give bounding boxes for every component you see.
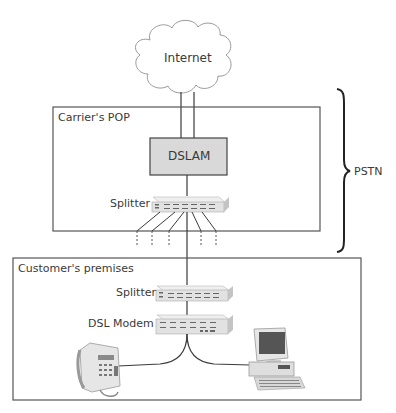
subscriber-lines (137, 212, 216, 231)
phone-cable (118, 334, 187, 366)
computer-cable (187, 334, 250, 365)
dslam-label: DSLAM (168, 150, 210, 162)
telephone-icon (78, 343, 120, 396)
computer-icon (249, 328, 305, 390)
carrier-pop-label: Carrier's POP (58, 112, 130, 123)
customer-splitter-label: Splitter (116, 287, 156, 298)
pstn-brace (337, 89, 350, 252)
pstn-label: PSTN (354, 166, 383, 177)
dsl-modem-label: DSL Modem (88, 318, 154, 329)
pop-splitter-device (152, 197, 229, 212)
pop-splitter-label: Splitter (110, 198, 150, 209)
internet-label: Internet (164, 52, 212, 64)
customer-premises-label: Customer's premises (18, 263, 134, 274)
dotted-lines (137, 231, 216, 247)
customer-splitter-device (156, 286, 233, 301)
dsl-modem-device (156, 315, 233, 334)
